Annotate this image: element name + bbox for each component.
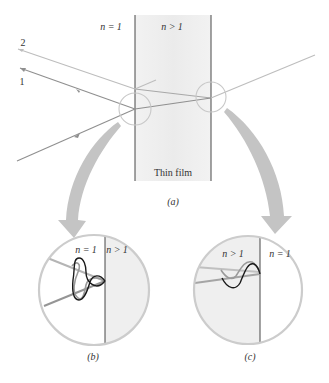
curved-arrow-to-b-icon (58, 122, 121, 238)
thin-film-interference-diagram (0, 0, 329, 383)
panel-b-caption: (b) (87, 351, 99, 362)
thin-film-label: Thin film (154, 167, 192, 178)
ray-2-label: 2 (21, 37, 26, 48)
panel-b-left-medium-label: n = 1 (75, 244, 97, 255)
panel-a (17, 15, 315, 238)
panel-a-caption: (a) (167, 196, 179, 207)
panel-c-caption: (c) (244, 351, 255, 362)
panel-b (39, 230, 155, 350)
panel-c-left-medium-label: n > 1 (222, 248, 244, 259)
panel-a-left-medium-label: n = 1 (100, 21, 122, 32)
panel-a-film-medium-label: n > 1 (161, 21, 183, 32)
panel-b-right-medium-label: n > 1 (106, 244, 128, 255)
ray-1-label: 1 (20, 76, 25, 87)
panel-c-right-medium-label: n = 1 (269, 248, 291, 259)
curved-arrow-to-c-icon (224, 108, 292, 234)
